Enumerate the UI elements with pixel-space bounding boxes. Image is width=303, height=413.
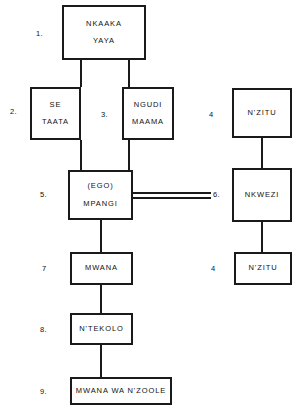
node-label-primary: N'ZITU — [249, 264, 278, 272]
connector-nkwezi-to-nzitu — [261, 222, 263, 252]
node-ngudi-maama[interactable]: NGUDI MAAMA — [122, 87, 174, 140]
connector-ngudi-to-ego — [128, 140, 130, 170]
node-label-primary: NKWEZI — [245, 191, 280, 199]
connector-ntekolo-to-mwana-wa-nzoole — [100, 345, 102, 377]
node-label-secondary: MPANGI — [83, 200, 117, 208]
node-label-primary: N'TEKOLO — [79, 325, 123, 333]
number-label-2: 2. — [10, 107, 17, 116]
number-label-8: 8. — [40, 325, 47, 334]
number-label-5: 5. — [40, 190, 47, 199]
number-label-1: 1. — [36, 29, 43, 38]
number-label-4-upper: 4 — [209, 110, 213, 119]
node-label-secondary: YAYA — [93, 37, 115, 45]
node-nzitu-lower[interactable]: N'ZITU — [234, 252, 292, 285]
node-label-primary: SE — [50, 101, 62, 109]
connector-se-to-ego — [80, 140, 82, 170]
marriage-line-lower — [133, 197, 211, 199]
number-label-7: 7 — [42, 264, 46, 273]
node-mwana-wa-nzoole[interactable]: MWANA WA N'ZOOLE — [70, 377, 172, 405]
node-ntekolo[interactable]: N'TEKOLO — [70, 313, 133, 345]
connector-mwana-to-ntekolo — [100, 285, 102, 313]
node-label-primary: NGUDI — [134, 101, 163, 109]
marriage-line-upper — [133, 192, 211, 194]
node-label-primary: MWANA — [85, 264, 118, 272]
number-label-3: 3. — [101, 110, 108, 119]
connector-nzitu-to-nkwezi — [261, 138, 263, 168]
number-label-9: 9. — [40, 387, 47, 396]
kinship-diagram: NKAAKA YAYA 1. SE TAATA 2. NGUDI MAAMA 3… — [0, 0, 303, 413]
marriage-link-ego-nkwezi — [133, 192, 211, 199]
number-label-4-lower: 4 — [211, 264, 215, 273]
node-ego-mpangi[interactable]: (EGO) MPANGI — [68, 170, 133, 220]
connector-nkaaka-to-ngudi — [128, 60, 130, 87]
node-label-primary: (EGO) — [87, 182, 113, 190]
node-nkwezi[interactable]: NKWEZI — [232, 168, 292, 222]
node-label-secondary: MAAMA — [132, 118, 164, 126]
number-label-6: 6. — [213, 190, 220, 199]
node-label-primary: NKAAKA — [86, 20, 122, 28]
node-label-secondary: TAATA — [42, 118, 69, 126]
connector-nkaaka-to-se — [80, 60, 82, 87]
node-mwana[interactable]: MWANA — [70, 252, 133, 285]
node-label-primary: MWANA WA N'ZOOLE — [76, 387, 166, 395]
node-nzitu-upper[interactable]: N'ZITU — [232, 88, 292, 138]
node-nkaaka-yaya[interactable]: NKAAKA YAYA — [62, 5, 146, 60]
node-se-taata[interactable]: SE TAATA — [30, 87, 81, 140]
connector-ego-to-mwana — [100, 220, 102, 252]
node-label-primary: N'ZITU — [248, 109, 277, 117]
